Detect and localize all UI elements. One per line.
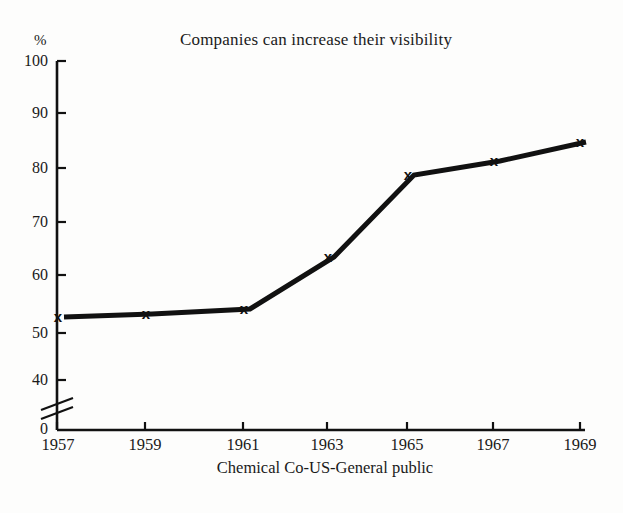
- data-line-series-1: [64, 142, 586, 317]
- data-marker-1957: x: [54, 308, 63, 325]
- y-tick-marks: [57, 61, 66, 380]
- plot-area: x x x x x x x: [0, 0, 623, 513]
- data-marker-1959: x: [142, 305, 151, 322]
- chart-figure: % Companies can increase their visibilit…: [0, 0, 623, 513]
- data-marker-1963: x: [324, 248, 333, 265]
- data-marker-1965: x: [404, 166, 413, 183]
- data-marker-1969: x: [576, 133, 585, 150]
- data-marker-1967: x: [490, 152, 499, 169]
- data-marker-1961: x: [240, 300, 249, 317]
